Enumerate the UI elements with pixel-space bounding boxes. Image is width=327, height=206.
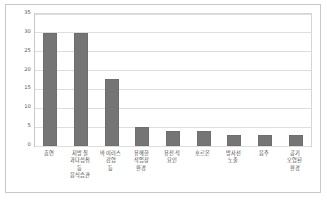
x-tick-label: 방사선노출 <box>218 150 249 165</box>
bar-slot <box>250 14 281 146</box>
x-tick-label: 음주 <box>249 150 280 157</box>
bar[interactable] <box>135 127 149 146</box>
y-tick-label: 20 <box>11 67 31 72</box>
x-tick-label: 바이러스 감염등 <box>95 150 126 172</box>
y-tick-label: 15 <box>11 85 31 90</box>
x-tick-label-line: 요인 <box>157 157 188 164</box>
bar[interactable] <box>166 131 180 146</box>
bar-slot <box>188 14 219 146</box>
y-tick-label: 25 <box>11 48 31 53</box>
x-tick-label: 흡연 <box>34 150 65 157</box>
x-tick-label: 유전적요인 <box>157 150 188 165</box>
bar-slot <box>96 14 127 146</box>
chart-frame: 05101520253035 흡연지방질과다섭취등음식습관바이러스 감염등유해한… <box>5 4 321 193</box>
bar[interactable] <box>43 33 57 146</box>
x-tick-label: 지방질과다섭취등음식습관 <box>65 150 96 180</box>
bars-layer <box>35 14 311 146</box>
y-tick-label: 30 <box>11 29 31 34</box>
x-tick-label-line: 과다섭취 <box>65 157 96 164</box>
y-tick-label: 0 <box>11 142 31 147</box>
y-axis: 05101520253035 <box>9 13 31 147</box>
bar-slot <box>158 14 189 146</box>
y-tick-label: 10 <box>11 104 31 109</box>
x-tick-label-line: 노출 <box>218 157 249 164</box>
bar-slot <box>35 14 66 146</box>
plot-area <box>34 13 312 147</box>
x-tick-label-line: 환경 <box>279 165 310 172</box>
bar-slot <box>219 14 250 146</box>
bar[interactable] <box>227 135 241 146</box>
x-tick-label-line: 환경 <box>126 165 157 172</box>
x-tick-label-line: 음주 <box>249 150 280 157</box>
x-tick-label: 호르몬 <box>187 150 218 157</box>
bar[interactable] <box>105 79 119 146</box>
x-axis-labels: 흡연지방질과다섭취등음식습관바이러스 감염등유해한작업장환경유전적요인호르몬방사… <box>34 150 312 194</box>
bar[interactable] <box>74 33 88 146</box>
x-tick-label: 공기오염된환경 <box>279 150 310 172</box>
bar-slot <box>66 14 97 146</box>
x-tick-label-line: 바이러스 감염 <box>95 150 126 165</box>
x-tick-label: 유해한작업장환경 <box>126 150 157 172</box>
x-tick-label-line: 음식습관 <box>65 172 96 179</box>
y-tick-label: 5 <box>11 123 31 128</box>
x-tick-label-line: 유전적 <box>157 150 188 157</box>
x-tick-label-line: 작업장 <box>126 157 157 164</box>
y-tick-label: 35 <box>11 10 31 15</box>
x-tick-label-line: 등 <box>95 165 126 172</box>
x-tick-label-line: 호르몬 <box>187 150 218 157</box>
x-tick-label-line: 흡연 <box>34 150 65 157</box>
bar[interactable] <box>258 135 272 146</box>
bar[interactable] <box>197 131 211 146</box>
chart-figure: 05101520253035 흡연지방질과다섭취등음식습관바이러스 감염등유해한… <box>0 0 327 206</box>
bar-slot <box>280 14 311 146</box>
bar-slot <box>127 14 158 146</box>
bar[interactable] <box>289 135 303 146</box>
x-tick-label-line: 오염된 <box>279 157 310 164</box>
